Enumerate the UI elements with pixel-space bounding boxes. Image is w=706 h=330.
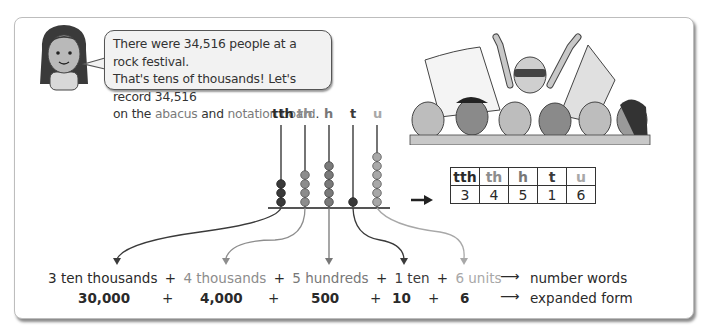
plus-sign: +: [428, 290, 439, 306]
plus-sign: +: [370, 290, 381, 306]
expanded-th: 4,000: [200, 290, 243, 306]
abacus: [268, 125, 390, 208]
words-tth: 3 ten thousands: [48, 270, 157, 286]
right-arrow-icon: ⟶: [500, 268, 519, 284]
board-header-t: t: [538, 168, 567, 186]
words-t: 1 ten: [394, 270, 429, 286]
plus-sign: +: [274, 270, 285, 286]
words-u: 6 units: [455, 270, 501, 286]
expanded-h: 500: [311, 290, 339, 306]
board-digit-u: 6: [567, 186, 596, 204]
board-digit-t: 1: [538, 186, 567, 204]
plus-sign: +: [437, 270, 448, 286]
words-th: 4 thousands: [183, 270, 266, 286]
expanded-t: 10: [392, 290, 411, 306]
expanded-form-label: expanded form: [530, 290, 633, 306]
words-h: 5 hundreds: [292, 270, 368, 286]
board-digit-h: 5: [509, 186, 538, 204]
board-header-h: h: [509, 168, 538, 186]
board-header-u: u: [567, 168, 596, 186]
expanded-tth: 30,000: [78, 290, 130, 306]
notation-board: tth th h t u 3 4 5 1 6: [450, 167, 596, 204]
right-arrow-icon: ⟶: [500, 288, 519, 304]
number-words-row: 3 ten thousands + 4 thousands + 5 hundre…: [48, 270, 502, 286]
board-header-tth: tth: [451, 168, 480, 186]
expanded-u: 6: [460, 290, 469, 306]
board-header-th: th: [480, 168, 509, 186]
plus-sign: +: [165, 270, 176, 286]
board-digit-th: 4: [480, 186, 509, 204]
plus-sign: +: [162, 290, 173, 306]
number-words-label: number words: [530, 270, 627, 286]
plus-sign: +: [376, 270, 387, 286]
board-digit-tth: 3: [451, 186, 480, 204]
plus-sign: +: [268, 290, 279, 306]
